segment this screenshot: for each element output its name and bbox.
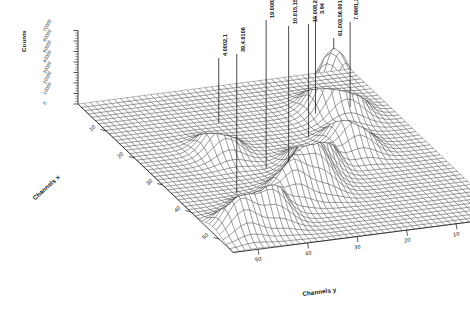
peak-annotation: 19.0082,3.0x xyxy=(269,0,275,18)
peak-annotation: 10.015,15 xyxy=(292,0,298,24)
surface-plot-svg xyxy=(0,0,470,316)
channels-y-tick-label: 50 xyxy=(255,256,262,263)
peak-annotation: 61.002,56.001 xyxy=(337,0,343,36)
axis-title-counts: Counts xyxy=(20,30,27,52)
channels-y-tick-label: 30 xyxy=(354,243,361,250)
peak-annotation: 3.94 xyxy=(319,3,325,14)
peak-annotation: 7.9981,34.1 xyxy=(353,0,359,20)
peak-annotation: 15.008,22.0 xyxy=(312,0,318,22)
channels-y-tick-label: 40 xyxy=(304,250,311,257)
figure-canvas: Counts Channels x Channels y 70000600005… xyxy=(0,0,470,316)
channels-y-tick-label: 10 xyxy=(453,230,460,237)
channels-y-tick-label: 20 xyxy=(403,237,410,244)
peak-annotation: 39,4.0106 xyxy=(240,27,246,52)
peak-annotation: 4.0002,1 xyxy=(222,34,228,56)
